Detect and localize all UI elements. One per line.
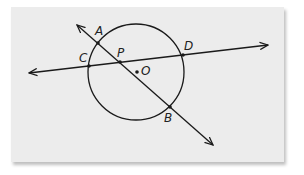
- label-o: O: [141, 64, 150, 78]
- point-o: [135, 70, 139, 74]
- point-c: [87, 64, 91, 68]
- label-a: A: [94, 24, 103, 38]
- point-p: [118, 60, 122, 64]
- label-d: D: [184, 39, 193, 53]
- geometry-diagram: A B C D P O: [0, 0, 304, 175]
- label-p: P: [117, 46, 125, 60]
- label-c: C: [79, 51, 88, 65]
- label-b: B: [164, 111, 172, 125]
- point-b: [168, 105, 172, 109]
- point-a: [96, 41, 100, 45]
- point-d: [181, 53, 185, 57]
